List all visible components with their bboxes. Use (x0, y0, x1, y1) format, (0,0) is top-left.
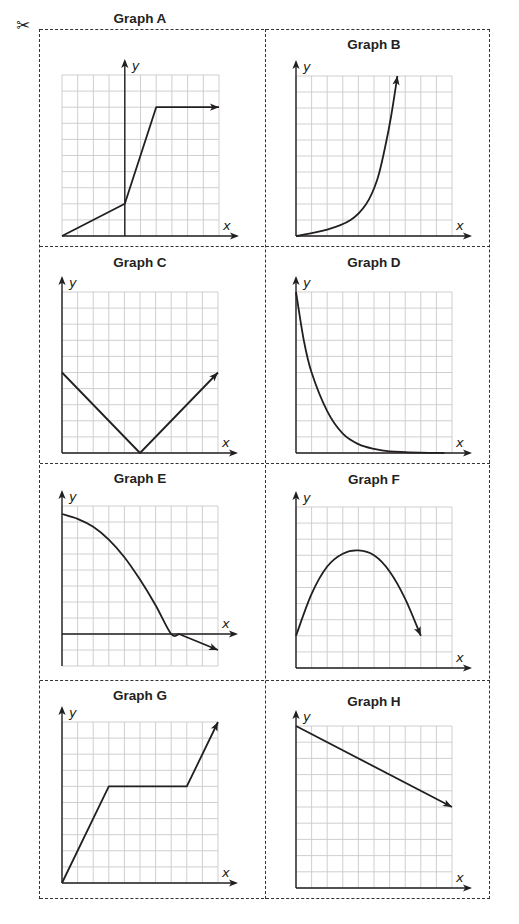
graph-canvas: yxyxyxyxyxyxyxyx (0, 0, 519, 924)
graph-e-y-label: y (68, 489, 77, 504)
graph-g-x-label: x (221, 865, 230, 880)
graph-c-x-label: x (221, 435, 230, 450)
graph-d-y-label: y (302, 275, 311, 290)
graph-a: yx (62, 58, 239, 240)
graph-e: yx (58, 489, 238, 666)
graph-d-grid (296, 292, 452, 453)
graph-f-x-label: x (455, 650, 464, 665)
graph-g-grid (62, 722, 218, 883)
graph-f-grid (296, 507, 452, 668)
graph-b-y-label: y (302, 59, 311, 74)
graph-h: yx (292, 709, 472, 892)
graph-g: yx (58, 705, 238, 887)
graph-a-y-label: y (131, 58, 140, 73)
graph-card-sheet: ✂ Graph A Graph B Graph C Graph D Graph … (0, 0, 519, 924)
graph-a-x-label: x (222, 218, 231, 233)
graph-f-y-label: y (302, 490, 311, 505)
graph-c: yx (58, 275, 238, 457)
graph-e-grid (62, 506, 218, 666)
graph-d-x-label: x (455, 435, 464, 450)
graph-h-y-label: y (302, 709, 311, 724)
graph-h-grid (296, 726, 452, 888)
graph-b: yx (292, 59, 472, 240)
graph-f: yx (292, 490, 472, 672)
graph-b-x-label: x (455, 218, 464, 233)
graph-c-y-label: y (68, 275, 77, 290)
graph-b-grid (296, 76, 452, 236)
graph-g-y-label: y (68, 705, 77, 720)
graph-e-x-label: x (221, 616, 230, 631)
graph-h-x-label: x (455, 870, 464, 885)
graph-d: yx (292, 275, 472, 457)
graph-c-grid (62, 292, 218, 453)
